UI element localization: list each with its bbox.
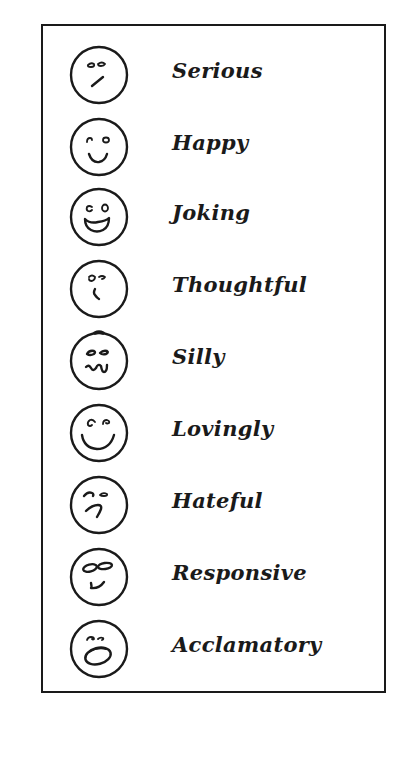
- happy-face-icon: [68, 116, 130, 178]
- legend-row-lovingly: Lovingly: [43, 396, 384, 468]
- thoughtful-face-icon: [68, 258, 130, 320]
- silly-face-icon: [68, 330, 130, 392]
- legend-row-silly: Silly: [43, 324, 384, 396]
- legend-label-serious: Serious: [172, 58, 263, 83]
- legend-label-happy: Happy: [172, 130, 249, 155]
- acclamatory-face-icon: [68, 618, 130, 680]
- legend-label-joking: Joking: [172, 200, 250, 225]
- legend-row-serious: Serious: [43, 38, 384, 110]
- legend-label-lovingly: Lovingly: [172, 416, 273, 441]
- legend-label-silly: Silly: [172, 344, 225, 369]
- legend-row-happy: Happy: [43, 110, 384, 182]
- legend-row-responsive: Responsive: [43, 540, 384, 612]
- loving-face-icon: [68, 402, 130, 464]
- hateful-face-icon: [68, 474, 130, 536]
- responsive-face-icon: [68, 546, 130, 608]
- legend-row-acclamatory: Acclamatory: [43, 612, 384, 684]
- legend-label-thoughtful: Thoughtful: [172, 272, 307, 297]
- legend-label-responsive: Responsive: [172, 560, 307, 585]
- legend-row-hateful: Hateful: [43, 468, 384, 540]
- legend-row-thoughtful: Thoughtful: [43, 252, 384, 324]
- legend-label-hateful: Hateful: [172, 488, 263, 513]
- serious-face-icon: [68, 44, 130, 106]
- legend-label-acclamatory: Acclamatory: [172, 632, 322, 657]
- joking-face-icon: [68, 186, 130, 248]
- legend-row-joking: Joking: [43, 180, 384, 252]
- emotion-legend: Serious Happy Joking: [41, 24, 386, 693]
